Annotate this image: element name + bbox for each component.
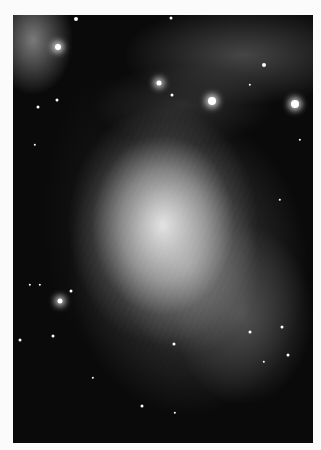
star — [157, 81, 162, 86]
star — [263, 361, 265, 363]
star — [262, 63, 266, 67]
star — [52, 335, 55, 338]
star — [55, 44, 61, 50]
star — [92, 377, 94, 379]
star — [19, 339, 22, 342]
star — [29, 284, 31, 286]
star — [170, 17, 173, 20]
star — [141, 405, 144, 408]
star — [74, 17, 78, 21]
star — [171, 94, 174, 97]
star — [299, 139, 301, 141]
star — [249, 84, 251, 86]
star — [39, 284, 41, 286]
star — [56, 99, 59, 102]
star — [34, 144, 36, 146]
star — [58, 299, 63, 304]
star — [208, 97, 216, 105]
star-field — [13, 15, 313, 443]
star — [287, 354, 290, 357]
star — [279, 199, 281, 201]
star — [70, 290, 73, 293]
star — [281, 326, 284, 329]
star — [291, 100, 299, 108]
star — [37, 106, 40, 109]
star — [249, 331, 252, 334]
star — [173, 343, 176, 346]
star — [174, 412, 176, 414]
nebula-photo — [13, 15, 313, 443]
